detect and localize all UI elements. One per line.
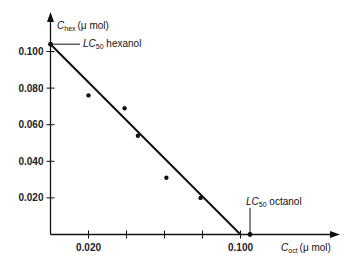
lc50-octanol-label: LC50 octanol — [246, 196, 302, 208]
data-point — [198, 196, 202, 200]
y-axis-label: Chex(μ mol) — [57, 20, 109, 32]
x-axis-label: Coct(μ mol) — [281, 242, 331, 254]
y-axis-arrow-icon — [47, 12, 54, 22]
y-tick-label: 0.060 — [18, 119, 43, 130]
x-tick-label: 0.020 — [76, 242, 101, 253]
y-tick-label: 0.040 — [18, 156, 43, 167]
y-tick-label: 0.020 — [18, 192, 43, 203]
data-point — [86, 93, 90, 97]
data-point — [164, 176, 168, 180]
lc50-hexanol-label: LC50 hexanol — [83, 38, 141, 50]
isobole-line — [51, 44, 251, 234]
isobole-chart: 0.0200.1000.0200.0400.0600.0800.100 Chex… — [0, 0, 348, 267]
lc50-hexanol-point — [48, 42, 53, 47]
x-tick-label: 0.100 — [228, 242, 253, 253]
data-point — [136, 133, 140, 137]
y-tick-label: 0.100 — [18, 46, 43, 57]
labels: Chex(μ mol) Coct(μ mol) LC50 hexanol LC5… — [57, 20, 331, 254]
ticks: 0.0200.1000.0200.0400.0600.0800.100 — [18, 46, 253, 253]
x-axis-arrow-icon — [330, 231, 340, 238]
data-point — [122, 106, 126, 110]
y-tick-label: 0.080 — [18, 83, 43, 94]
lc50-octanol-point — [248, 232, 253, 237]
data-points — [48, 42, 252, 237]
isobole-line-segment — [51, 44, 241, 234]
